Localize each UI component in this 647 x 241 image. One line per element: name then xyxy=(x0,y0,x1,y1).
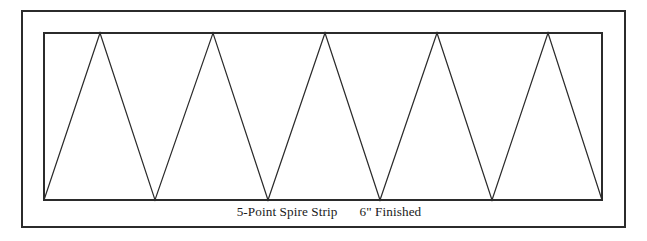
caption-secondary-label: 6" Finished xyxy=(360,204,422,219)
caption-primary-label: 5-Point Spire Strip xyxy=(237,204,338,219)
spire-strip-figure: 5-Point Spire Strip6" Finished xyxy=(0,0,647,241)
figure-canvas: 5-Point Spire Strip6" Finished xyxy=(0,0,647,241)
strip-caption: 5-Point Spire Strip6" Finished xyxy=(237,204,422,219)
